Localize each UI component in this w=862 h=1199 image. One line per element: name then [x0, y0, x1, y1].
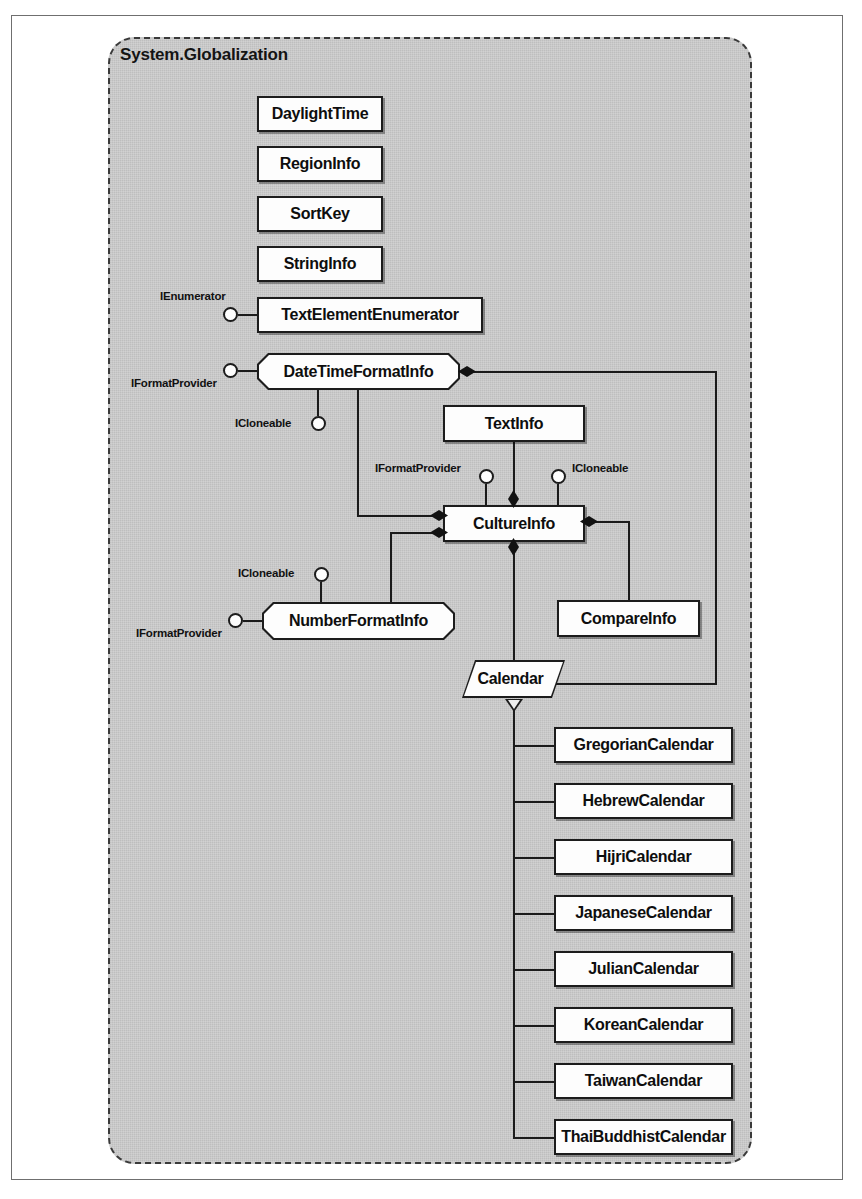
lollipop-ienumerator[interactable] [223, 307, 238, 322]
interface-label-cultureinfo-icloneable: ICloneable [572, 462, 628, 474]
interface-label-dtfi-iformatprovider: IFormatProvider [131, 377, 217, 389]
composition-diamond-cultureinfo-bottom [508, 538, 519, 556]
composition-diamond-cultureinfo-left-lower [430, 527, 448, 538]
interface-label-nfi-icloneable: ICloneable [238, 567, 294, 579]
interface-label-cultureinfo-iformatprovider: IFormatProvider [375, 462, 461, 474]
composition-diamond-cultureinfo-right [580, 516, 598, 527]
lollipop-nfi-iformatprovider[interactable] [228, 613, 243, 628]
inheritance-triangle-calendar [505, 699, 523, 712]
ornament-layer: IEnumerator IFormatProvider ICloneable I… [0, 0, 862, 1199]
lollipop-nfi-icloneable[interactable] [314, 567, 329, 582]
interface-label-dtfi-icloneable: ICloneable [235, 417, 291, 429]
lollipop-cultureinfo-icloneable[interactable] [551, 469, 566, 484]
lollipop-cultureinfo-iformatprovider[interactable] [479, 469, 494, 484]
diagram-page: System.Globalization [0, 0, 862, 1199]
interface-label-ienumerator: IEnumerator [160, 290, 226, 302]
lollipop-dtfi-icloneable[interactable] [311, 416, 326, 431]
composition-diamond-cultureinfo-left-upper [430, 510, 448, 521]
composition-diamond-cultureinfo-top [508, 490, 519, 508]
interface-label-nfi-iformatprovider: IFormatProvider [136, 627, 222, 639]
composition-diamond-dtfi-right [458, 366, 476, 377]
lollipop-dtfi-iformatprovider[interactable] [223, 363, 238, 378]
